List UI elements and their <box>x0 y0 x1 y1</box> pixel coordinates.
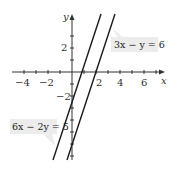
y-tick-label: −2 <box>56 91 71 102</box>
x-axis-label: x <box>161 75 167 86</box>
y-tick-label: 2 <box>61 42 67 53</box>
line-3x-y-6 <box>67 14 115 160</box>
x-tick-label: −2 <box>39 77 54 88</box>
line-6x-2y-5 <box>53 14 101 160</box>
x-tick-label: 6 <box>141 77 147 88</box>
line1-label: 3x − y = 6 <box>114 39 165 50</box>
line2-label: 6x − 2y = 5 <box>12 121 69 132</box>
x-tick-label: 4 <box>117 77 123 88</box>
callout-line2: 6x − 2y = 5 <box>10 119 69 146</box>
x-axis: −4 −2 2 4 6 x <box>12 70 167 89</box>
callout-line1: 3x − y = 6 <box>111 28 165 52</box>
coordinate-plane: −4 −2 2 4 6 x 2 −2 y 3x − y = 6 <box>0 0 178 171</box>
x-tick-label: −4 <box>15 77 30 88</box>
x-tick-label: 2 <box>96 77 102 88</box>
y-axis-label: y <box>62 11 69 22</box>
y-axis: 2 −2 y <box>56 11 75 160</box>
